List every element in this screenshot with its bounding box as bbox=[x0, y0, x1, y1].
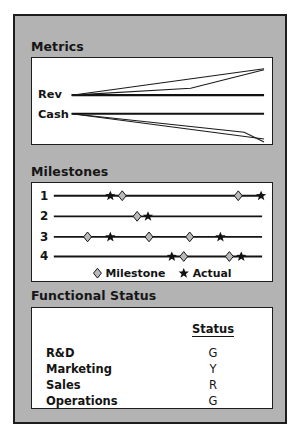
milestone-row-label-2: 2 bbox=[40, 209, 48, 223]
table-row: R&D G bbox=[32, 346, 272, 363]
milestone-marker-milestone bbox=[145, 232, 153, 242]
milestone-marker-milestone bbox=[180, 252, 188, 262]
milestone-marker-milestone bbox=[118, 191, 126, 201]
status-table: Status R&D G Marketing Y Sales R Operati… bbox=[32, 308, 272, 408]
metrics-line-rev-upper bbox=[72, 69, 264, 95]
milestones-chart-panel: 1 2 3 4 bbox=[31, 182, 273, 282]
milestones-section-title: Milestones bbox=[31, 164, 108, 179]
milestones-gantt-chart: 1 2 3 4 bbox=[32, 183, 272, 281]
legend-actual-label: Actual bbox=[193, 267, 232, 280]
legend-milestone-label: Milestone bbox=[105, 267, 165, 280]
status-row-name: Sales bbox=[46, 378, 81, 392]
functional-status-section-title: Functional Status bbox=[31, 288, 156, 303]
functional-status-panel: Status R&D G Marketing Y Sales R Operati… bbox=[31, 307, 273, 409]
table-row: Operations G bbox=[32, 394, 272, 411]
legend-milestone-icon bbox=[93, 268, 101, 278]
milestone-marker-milestone bbox=[234, 191, 242, 201]
metrics-line-cash-lower bbox=[72, 114, 264, 139]
metrics-line-chart: Rev Cash bbox=[32, 58, 272, 144]
status-column-header: Status bbox=[178, 322, 248, 336]
status-row-name: R&D bbox=[46, 346, 74, 360]
status-row-value: R bbox=[178, 378, 248, 392]
legend-actual-icon bbox=[179, 268, 189, 278]
table-row: Sales R bbox=[32, 378, 272, 395]
metrics-label-cash: Cash bbox=[38, 107, 69, 121]
milestone-marker-milestone bbox=[133, 211, 141, 221]
status-column-header-label: Status bbox=[192, 322, 234, 337]
milestone-marker-milestone bbox=[186, 232, 194, 242]
status-row-value: G bbox=[178, 394, 248, 408]
status-row-name: Operations bbox=[46, 394, 118, 408]
dashboard-panel: Metrics Rev Cash Milestones 1 bbox=[13, 14, 287, 424]
status-row-value: Y bbox=[178, 362, 248, 376]
milestone-marker-milestone bbox=[225, 252, 233, 262]
status-row-value: G bbox=[178, 346, 248, 360]
metrics-chart-panel: Rev Cash bbox=[31, 57, 273, 145]
table-row: Marketing Y bbox=[32, 362, 272, 379]
milestone-row-label-3: 3 bbox=[40, 230, 48, 244]
milestone-marker-milestone bbox=[84, 232, 92, 242]
metrics-label-rev: Rev bbox=[38, 87, 63, 101]
milestone-row-label-1: 1 bbox=[40, 189, 48, 203]
metrics-section-title: Metrics bbox=[31, 39, 84, 54]
status-row-name: Marketing bbox=[46, 362, 112, 376]
milestone-row-label-4: 4 bbox=[40, 249, 48, 263]
